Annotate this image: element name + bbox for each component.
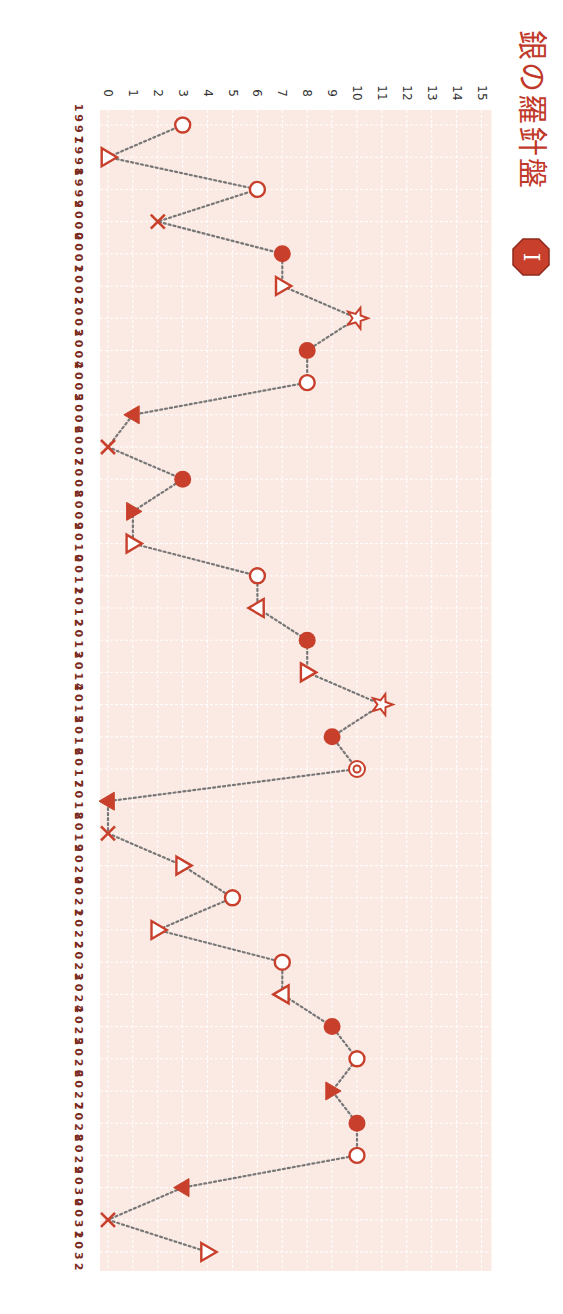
marker-circle-open [175, 118, 190, 133]
value-tick-label: 7 [275, 89, 289, 97]
marker-circle-filled [324, 728, 341, 745]
value-tick-label: 5 [226, 89, 240, 97]
marker-circle-open [350, 1148, 365, 1163]
year-tick-label: 2032 [72, 1231, 85, 1274]
value-tick-label: 15 [475, 85, 489, 100]
marker-double-circle [349, 761, 365, 777]
marker-circle-filled [299, 632, 316, 649]
marker-circle-open [350, 1051, 365, 1066]
value-tick-label: 13 [425, 85, 439, 100]
plot-area [100, 110, 492, 1271]
value-tick-label: 6 [250, 89, 264, 97]
marker-circle-open [250, 568, 265, 583]
value-tick-label: 3 [176, 89, 190, 97]
marker-circle-filled [274, 245, 291, 262]
marker-circle-open [275, 955, 290, 970]
value-tick-label: 10 [350, 85, 364, 100]
value-tick-label: 2 [151, 89, 165, 97]
value-axis-ticks: 0123456789101112131415 [101, 85, 489, 100]
value-tick-label: 0 [101, 89, 115, 97]
marker-circle-open [225, 890, 240, 905]
value-tick-label: 8 [300, 89, 314, 97]
value-tick-label: 14 [450, 85, 464, 100]
year-axis-ticks: 1997199819992000200120022003200420052006… [71, 104, 84, 1274]
value-tick-label: 4 [201, 89, 215, 97]
marker-circle-filled [349, 1115, 366, 1132]
line-chart: 0123456789101112131415 19971998199920002… [0, 0, 563, 1314]
marker-circle-filled [174, 471, 191, 488]
value-tick-label: 9 [325, 89, 339, 97]
value-tick-label: 11 [375, 85, 389, 100]
marker-circle-filled [324, 1018, 341, 1035]
plot-background [100, 110, 492, 1271]
marker-circle-open [250, 182, 265, 197]
marker-circle-open [300, 375, 315, 390]
marker-circle-filled [299, 342, 316, 359]
value-tick-label: 12 [400, 85, 414, 100]
value-tick-label: 1 [126, 89, 140, 97]
